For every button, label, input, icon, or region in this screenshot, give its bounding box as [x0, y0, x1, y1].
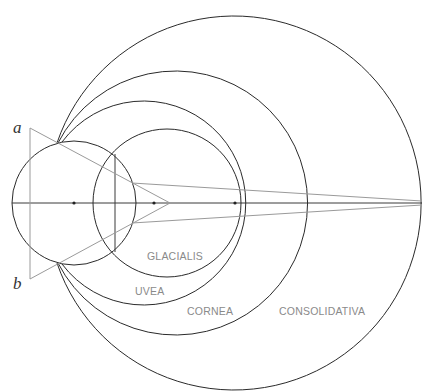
- center-dot-middle: [152, 201, 155, 204]
- center-dot-right: [233, 201, 236, 204]
- ray-a-to-apex: [30, 128, 170, 203]
- label-uvea: UVEA: [135, 285, 164, 297]
- center-dot-left: [72, 201, 75, 204]
- ray-upper-to-far-point: [132, 183, 422, 201]
- point-label-b: b: [13, 274, 22, 293]
- ray-lower-to-far-point: [132, 205, 422, 223]
- label-consolidativa: CONSOLIDATIVA: [279, 305, 365, 317]
- label-cornea: CORNEA: [187, 305, 233, 317]
- eye-diagram: a b GLACIALIS UVEA CORNEA CONSOLIDATIVA: [0, 0, 432, 392]
- label-glacialis: GLACIALIS: [147, 250, 203, 262]
- ray-b-to-apex: [30, 203, 170, 279]
- point-label-a: a: [13, 118, 22, 137]
